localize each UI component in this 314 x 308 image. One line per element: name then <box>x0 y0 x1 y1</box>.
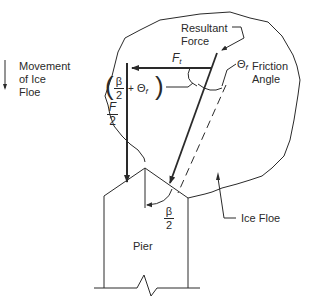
combined-angle-leader <box>166 83 193 87</box>
combined-angle-theta: Θf <box>137 82 148 98</box>
diagram-canvas <box>0 0 314 308</box>
ice-floe-leader <box>218 178 225 218</box>
resultant-force-vector <box>170 53 217 183</box>
theta-f-arc <box>198 84 222 90</box>
combined-angle-plus: + <box>128 83 134 95</box>
ice-floe-leader-arrow-icon <box>216 172 220 180</box>
pier-outline <box>94 168 200 296</box>
movement-label-line1: Movement <box>19 60 70 72</box>
friction-label-line1: Friction <box>252 60 288 72</box>
combined-angle-open-paren: ( <box>105 73 114 99</box>
resultant-label-line2: Force <box>181 35 209 47</box>
theta-f-leader <box>222 64 236 86</box>
ice-floe-label: Ice Floe <box>241 212 280 224</box>
beta-half-arc <box>147 189 172 205</box>
pier-label: Pier <box>133 240 153 252</box>
ft-label: Ft <box>172 52 182 68</box>
friction-label-line2: Angle <box>252 73 280 85</box>
combined-angle-close-paren: ) <box>155 73 164 99</box>
ice-floe-edge <box>188 192 212 198</box>
f-half-label: F 2 <box>107 102 118 127</box>
resultant-label-line1: Resultant <box>181 22 227 34</box>
combined-angle-beta-half: β 2 <box>114 76 124 101</box>
movement-label-line2: of Ice <box>19 73 46 85</box>
theta-f-label: Θf <box>237 58 248 74</box>
beta-half-label: β 2 <box>164 206 174 231</box>
movement-label-line3: Floe <box>19 86 40 98</box>
movement-arrow-icon <box>3 60 7 90</box>
